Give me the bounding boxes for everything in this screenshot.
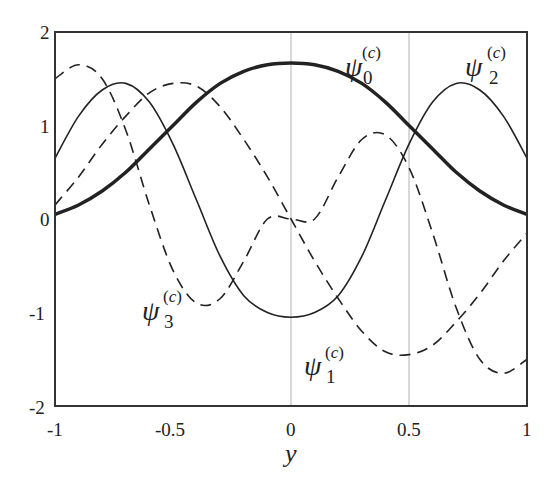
svg-text:1: 1 [326,366,336,387]
y-tick-2: 2 [40,22,50,43]
x-axis-label: y [282,439,297,468]
svg-text:ψ: ψ [304,350,322,381]
svg-text:(c): (c) [362,43,381,62]
y-tick-1: 1 [40,116,50,137]
svg-text:ψ: ψ [465,51,483,82]
svg-text:(c): (c) [487,43,506,62]
label-psi0: ψ 0 (c) [345,43,381,88]
svg-text:(c): (c) [325,343,344,362]
label-psi1: ψ 1 (c) [304,343,344,387]
svg-text:3: 3 [164,311,174,332]
svg-text:(c): (c) [163,287,182,306]
chart: 2 1 0 -1 -2 -1 -0.5 0 0.5 1 y ψ 0 (c) ψ … [0,0,560,489]
y-tick-neg2: -2 [29,397,45,418]
y-tick-neg1: -1 [29,303,45,324]
x-tick-neg0.5: -0.5 [155,419,185,440]
x-tick-neg1: -1 [47,419,63,440]
y-tick-0: 0 [40,209,50,230]
label-psi2: ψ 2 (c) [465,43,506,88]
x-tick-0: 0 [286,419,296,440]
svg-text:0: 0 [363,67,373,88]
label-psi3: ψ 3 (c) [142,287,182,332]
x-tick-0.5: 0.5 [397,419,421,440]
svg-text:ψ: ψ [345,51,363,82]
svg-text:2: 2 [489,67,499,88]
svg-text:ψ: ψ [142,295,160,326]
x-tick-1: 1 [522,419,532,440]
